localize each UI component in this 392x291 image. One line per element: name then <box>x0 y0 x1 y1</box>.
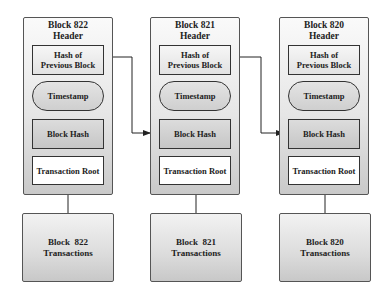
transactions-line2: Transactions <box>300 248 349 259</box>
block-821-hash-previous: Hash ofPrevious Block <box>159 45 231 75</box>
block-821-transactions: Block 821Transactions <box>150 213 242 282</box>
block-820-header-title: Block 820 Header <box>280 20 368 42</box>
block-820-block-hash: Block Hash <box>288 119 360 149</box>
hash-prev-line1: Hash of <box>41 50 95 60</box>
header-title-line1: Block 822 <box>24 20 112 31</box>
hash-prev-line1: Hash of <box>297 50 351 60</box>
link-821-to-820 <box>236 57 283 133</box>
header-title-line2: Header <box>280 31 368 42</box>
block-822-hash-previous: Hash ofPrevious Block <box>32 45 104 75</box>
block-822-timestamp: Timestamp <box>32 81 104 111</box>
transactions-line1: Block 820 <box>300 237 349 248</box>
block-821-block-hash: Block Hash <box>159 119 231 149</box>
transactions-line1: Block 821 <box>171 237 220 248</box>
block-820-hash-previous: Hash ofPrevious Block <box>288 45 360 75</box>
block-822-header: Block 822 Header Hash ofPrevious Block T… <box>23 17 113 195</box>
block-820-transactions: Block 820Transactions <box>279 213 371 282</box>
block-820-transaction-root: Transaction Root <box>288 156 360 185</box>
header-title-line1: Block 821 <box>151 20 239 31</box>
block-821-header-title: Block 821 Header <box>151 20 239 42</box>
header-title-line2: Header <box>151 31 239 42</box>
transactions-line1: Block 822 <box>43 237 92 248</box>
transactions-line2: Transactions <box>43 248 92 259</box>
block-820-timestamp: Timestamp <box>288 81 360 111</box>
block-822-transactions: Block 822Transactions <box>22 213 114 282</box>
hash-prev-line1: Hash of <box>168 50 222 60</box>
block-822-block-hash: Block Hash <box>32 119 104 149</box>
block-821-header: Block 821 Header Hash ofPrevious Block T… <box>150 17 240 195</box>
block-821-transaction-root: Transaction Root <box>159 156 231 185</box>
block-820-header: Block 820 Header Hash ofPrevious Block T… <box>279 17 369 195</box>
header-title-line2: Header <box>24 31 112 42</box>
block-821-timestamp: Timestamp <box>159 81 231 111</box>
block-822-transaction-root: Transaction Root <box>32 156 104 185</box>
hash-prev-line2: Previous Block <box>297 60 351 70</box>
transactions-line2: Transactions <box>171 248 220 259</box>
hash-prev-line2: Previous Block <box>41 60 95 70</box>
hash-prev-line2: Previous Block <box>168 60 222 70</box>
header-title-line1: Block 820 <box>280 20 368 31</box>
block-822-header-title: Block 822 Header <box>24 20 112 42</box>
